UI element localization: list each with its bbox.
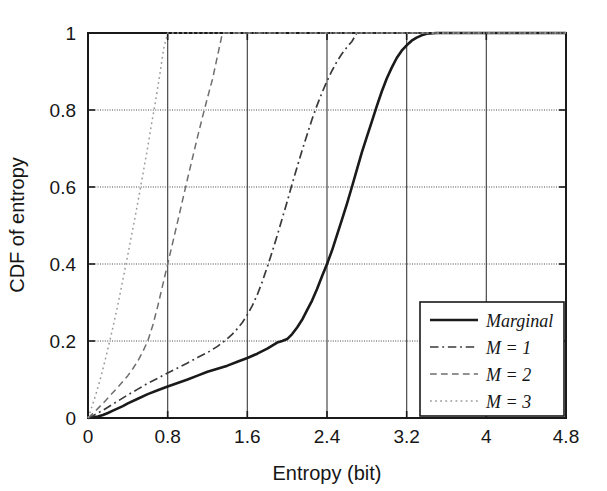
legend-label: Marginal [485, 311, 553, 331]
legend-label: M = 2 [485, 365, 531, 385]
x-axis-title: Entropy (bit) [273, 462, 382, 484]
y-tick-label: 0.8 [50, 100, 76, 121]
legend-label: M = 1 [485, 338, 531, 358]
y-tick-label: 0.6 [50, 177, 76, 198]
y-tick-label: 0.4 [50, 254, 77, 275]
y-axis-title: CDF of entropy [6, 157, 28, 293]
x-tick-label: 1.6 [234, 426, 260, 447]
cdf-entropy-figure: 00.81.62.43.244.8 00.20.40.60.81 Entropy… [0, 0, 607, 491]
legend-label: M = 3 [485, 392, 531, 412]
x-tick-label: 4.8 [553, 426, 579, 447]
y-tick-label: 1 [65, 23, 76, 44]
y-tick-labels: 00.20.40.60.81 [50, 23, 77, 429]
x-tick-label: 2.4 [314, 426, 341, 447]
legend: MarginalM = 1M = 2M = 3 [420, 302, 564, 416]
x-tick-label: 0 [83, 426, 94, 447]
chart-canvas: 00.81.62.43.244.8 00.20.40.60.81 Entropy… [0, 0, 607, 491]
x-tick-label: 0.8 [154, 426, 180, 447]
y-tick-label: 0 [65, 408, 76, 429]
x-tick-label: 3.2 [393, 426, 419, 447]
x-tick-labels: 00.81.62.43.244.8 [83, 426, 580, 447]
x-tick-label: 4 [481, 426, 492, 447]
y-tick-label: 0.2 [50, 331, 76, 352]
